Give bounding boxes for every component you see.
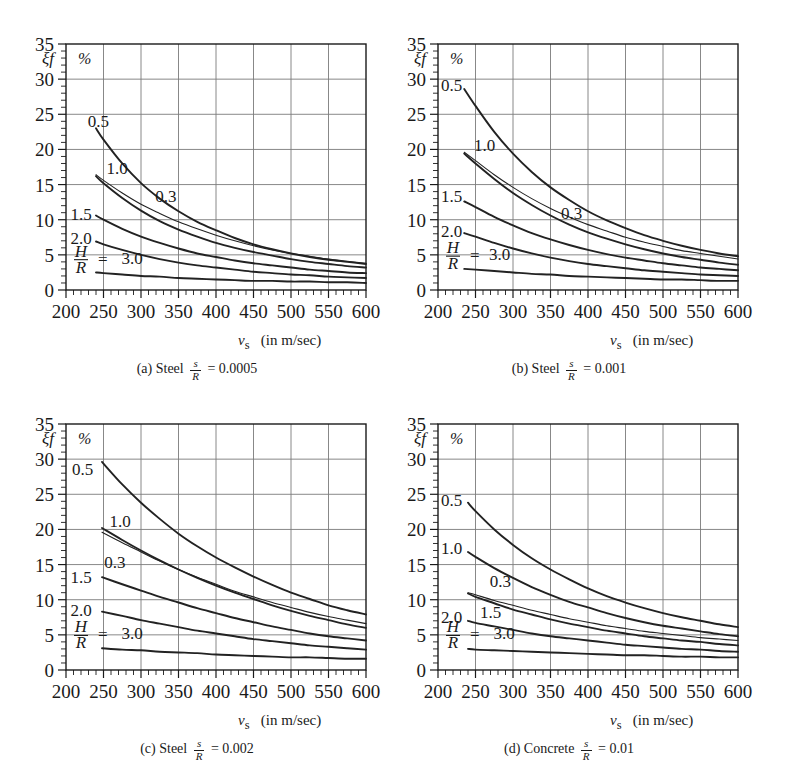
y-tick-label: 5 xyxy=(45,245,55,266)
y-tick-label: 0 xyxy=(417,280,427,301)
curve-hr-0-3 xyxy=(102,532,366,623)
percent-unit-label: % xyxy=(78,430,91,447)
y-tick-label: 30 xyxy=(407,449,426,470)
y-tick-label: 20 xyxy=(35,519,54,540)
curve-label-0-3: 0.3 xyxy=(104,553,125,572)
caption-equation-a: = 0.0005 xyxy=(207,361,257,376)
y-tick-label: 30 xyxy=(407,69,426,90)
x-tick-label: 200 xyxy=(52,681,81,702)
x-tick-label: 350 xyxy=(536,681,565,702)
x-tick-label: 450 xyxy=(611,681,640,702)
curve-label-0-5: 0.5 xyxy=(441,491,462,510)
curve-label-1-0: 1.0 xyxy=(109,512,130,531)
x-axis-units-b: (in m/sec) xyxy=(633,332,693,348)
x-axis-subscript-a: s xyxy=(245,338,250,352)
x-axis-title-d: vs (in m/sec) xyxy=(610,712,693,733)
x-axis-units-a: (in m/sec) xyxy=(261,332,321,348)
caption-frac-den-c: R xyxy=(194,751,205,763)
curve-label-1-5: 1.5 xyxy=(480,603,501,622)
curve-label-1-5: 1.5 xyxy=(70,205,91,224)
caption-frac-num-a: s xyxy=(190,358,201,371)
x-tick-label: 500 xyxy=(649,681,678,702)
x-axis-symbol-b: v xyxy=(610,332,617,348)
caption-material-c: Steel xyxy=(159,741,187,756)
x-tick-label: 400 xyxy=(202,301,231,322)
percent-unit-label: % xyxy=(450,430,463,447)
caption-fraction-c: s R xyxy=(194,738,205,762)
x-tick-label: 350 xyxy=(536,301,565,322)
x-tick-label: 200 xyxy=(424,301,453,322)
percent-unit-label: % xyxy=(450,50,463,67)
curve-hr-3-0 xyxy=(96,272,366,283)
x-axis-units-d: (in m/sec) xyxy=(633,712,693,728)
curve-label-0-5: 0.5 xyxy=(88,112,109,131)
curve-label-0-5: 0.5 xyxy=(72,460,93,479)
caption-equation-b: = 0.001 xyxy=(583,361,626,376)
y-tick-label: 20 xyxy=(407,519,426,540)
hr-equals-sign: = xyxy=(98,625,108,644)
caption-fraction-d: s R xyxy=(581,738,592,762)
y-tick-label: 5 xyxy=(45,625,55,646)
caption-material-b: Steel xyxy=(532,361,560,376)
y-tick-label: 30 xyxy=(35,69,54,90)
chart-panel-b: 2002503003504004505005506000510152025303… xyxy=(372,0,766,390)
y-tick-label: 20 xyxy=(407,139,426,160)
x-axis-title-a: vs (in m/sec) xyxy=(238,332,321,353)
x-tick-label: 600 xyxy=(724,301,753,322)
curve-label-0-5: 0.5 xyxy=(441,76,462,95)
y-tick-label: 25 xyxy=(407,104,426,125)
curve-label-0-3: 0.3 xyxy=(155,187,176,206)
y-tick-label: 0 xyxy=(45,660,55,681)
x-axis-title-b: vs (in m/sec) xyxy=(610,332,693,353)
x-tick-label: 300 xyxy=(499,681,528,702)
percent-unit-label: % xyxy=(78,50,91,67)
x-tick-label: 600 xyxy=(724,681,753,702)
x-axis-symbol-a: v xyxy=(238,332,245,348)
chart-panel-a: 2002503003504004505005506000510152025303… xyxy=(0,0,394,390)
y-tick-label: 10 xyxy=(35,590,54,611)
x-tick-label: 300 xyxy=(499,301,528,322)
x-tick-label: 300 xyxy=(127,301,156,322)
y-tick-label: 15 xyxy=(35,555,54,576)
y-tick-label: 0 xyxy=(417,660,427,681)
y-tick-label: 25 xyxy=(35,104,54,125)
y-tick-label: 25 xyxy=(35,484,54,505)
y-axis-symbol: ξf xyxy=(414,429,428,448)
x-tick-label: 550 xyxy=(314,681,343,702)
caption-material-d: Concrete xyxy=(524,741,575,756)
y-axis-symbol: ξf xyxy=(42,429,56,448)
y-tick-label: 15 xyxy=(407,175,426,196)
hr-denominator: R xyxy=(75,258,87,277)
curve-label-1-5: 1.5 xyxy=(70,568,91,587)
x-tick-label: 250 xyxy=(461,301,490,322)
x-tick-label: 250 xyxy=(89,301,118,322)
x-tick-label: 550 xyxy=(686,681,715,702)
curve-label-3-0: 3.0 xyxy=(121,624,142,643)
x-axis-subscript-c: s xyxy=(245,718,250,732)
hr-denominator: R xyxy=(447,254,459,273)
x-tick-label: 400 xyxy=(574,681,603,702)
plot-c: 2002503003504004505005506000510152025303… xyxy=(0,380,394,710)
x-tick-label: 500 xyxy=(649,301,678,322)
caption-a: (a) Steel s R = 0.0005 xyxy=(0,358,394,382)
chart-panel-c: 2002503003504004505005506000510152025303… xyxy=(0,380,394,770)
hr-denominator: R xyxy=(447,633,459,652)
caption-material-a: Steel xyxy=(156,361,184,376)
y-tick-label: 0 xyxy=(45,280,55,301)
x-tick-label: 250 xyxy=(461,681,490,702)
curve-label-3-0: 3.0 xyxy=(493,624,514,643)
curve-label-3-0: 3.0 xyxy=(489,245,510,264)
curve-hr-1-0 xyxy=(102,528,366,628)
curve-hr-3-0 xyxy=(102,648,366,659)
curve-label-1-0: 1.0 xyxy=(106,159,127,178)
caption-fraction-b: s R xyxy=(566,358,577,382)
caption-index-d: (d) xyxy=(504,741,520,756)
caption-frac-num-d: s xyxy=(581,738,592,751)
y-tick-label: 15 xyxy=(35,175,54,196)
caption-equation-c: = 0.002 xyxy=(211,741,254,756)
caption-frac-num-b: s xyxy=(566,358,577,371)
hr-equals-sign: = xyxy=(470,625,480,644)
y-tick-label: 30 xyxy=(35,449,54,470)
hr-denominator: R xyxy=(75,633,87,652)
caption-c: (c) Steel s R = 0.002 xyxy=(0,738,394,762)
